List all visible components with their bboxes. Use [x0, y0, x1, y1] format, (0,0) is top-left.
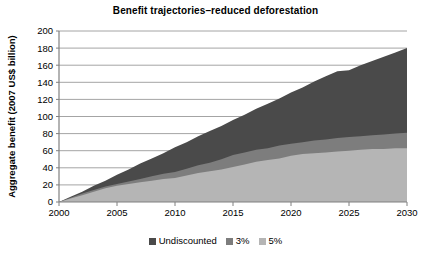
y-axis-title-text: Aggregate benefit (2007 US$ billion) [6, 35, 17, 198]
x-tick-label: 2025 [338, 207, 359, 218]
chart-legend: Undiscounted3%5% [0, 236, 431, 246]
y-tick-label: 0 [48, 196, 53, 207]
legend-swatch-icon [259, 238, 266, 245]
x-tick-label: 2020 [280, 207, 301, 218]
y-tick-label: 200 [37, 25, 53, 36]
y-tick-label: 60 [42, 145, 53, 156]
y-tick-label: 140 [37, 77, 53, 88]
area-chart-plot: 2000200520102015202020252030 02040608010… [0, 0, 431, 236]
x-tick-label: 2015 [222, 207, 243, 218]
chart-figure: Benefit trajectories–reduced deforestati… [0, 0, 431, 260]
y-axis-ticks: 020406080100120140160180200 [37, 25, 59, 207]
y-tick-label: 180 [37, 43, 53, 54]
legend-item[interactable]: Undiscounted [149, 236, 217, 246]
y-tick-label: 100 [37, 111, 53, 122]
x-tick-label: 2030 [396, 207, 417, 218]
y-axis-title: Aggregate benefit (2007 US$ billion) [6, 35, 17, 198]
y-tick-label: 160 [37, 60, 53, 71]
x-axis-ticks: 2000200520102015202020252030 [48, 202, 417, 218]
legend-item[interactable]: 3% [226, 236, 250, 246]
legend-label: Undiscounted [159, 236, 217, 246]
area-series-group [59, 48, 407, 202]
x-tick-label: 2005 [106, 207, 127, 218]
legend-swatch-icon [226, 238, 233, 245]
legend-item[interactable]: 5% [259, 236, 283, 246]
legend-label: 5% [269, 236, 283, 246]
legend-label: 3% [236, 236, 250, 246]
x-tick-label: 2000 [48, 207, 69, 218]
y-tick-label: 120 [37, 94, 53, 105]
y-tick-label: 20 [42, 179, 53, 190]
legend-swatch-icon [149, 238, 156, 245]
x-tick-label: 2010 [164, 207, 185, 218]
y-tick-label: 40 [42, 162, 53, 173]
y-tick-label: 80 [42, 128, 53, 139]
